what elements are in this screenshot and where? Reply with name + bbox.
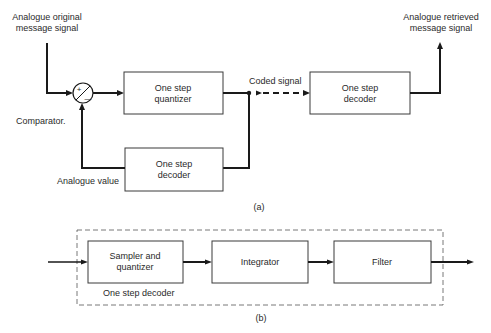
output-wire bbox=[410, 48, 440, 93]
b-output-arrow-icon bbox=[467, 260, 474, 265]
quantizer-label-line2: quantizer bbox=[154, 94, 191, 104]
integrator-input-arrow-icon bbox=[205, 260, 212, 265]
feedback-wire-left bbox=[82, 109, 125, 168]
feedback-decoder-label-line1: One step bbox=[156, 159, 193, 169]
filter-input-arrow-icon bbox=[327, 260, 334, 265]
output-label-line1: Analogue retrieved bbox=[403, 12, 479, 22]
diagram-a: Analogue original message signal + — Com… bbox=[12, 12, 479, 212]
integrator-block: Integrator bbox=[212, 241, 308, 283]
quantizer-block: One step quantizer bbox=[124, 72, 223, 114]
comparator-minus: — bbox=[85, 95, 92, 102]
sampler-quantizer-block: Sampler and quantizer bbox=[88, 241, 183, 283]
b-input-arrow-icon bbox=[81, 260, 88, 265]
input-wire bbox=[47, 43, 68, 93]
output-decoder-label-line2: decoder bbox=[344, 94, 377, 104]
input-label-line1: Analogue original bbox=[12, 12, 82, 22]
decoder-input-arrow-icon bbox=[303, 90, 310, 96]
feedback-label: Analogue value bbox=[57, 176, 119, 186]
output-decoder-block: One step decoder bbox=[310, 72, 410, 114]
input-label-line2: message signal bbox=[16, 23, 79, 33]
comparator: + — bbox=[73, 83, 93, 103]
filter-block: Filter bbox=[334, 241, 431, 283]
comparator-label: Comparator. bbox=[16, 116, 66, 126]
sampler-label-line1: Sampler and bbox=[109, 251, 160, 261]
caption-b: (b) bbox=[256, 313, 267, 323]
feedback-arrow-icon bbox=[79, 103, 85, 110]
diagram-b: One step decoder Sampler and quantizer I… bbox=[48, 230, 474, 323]
input-arrow-icon bbox=[66, 90, 73, 96]
comparator-plus: + bbox=[77, 85, 82, 94]
integrator-label: Integrator bbox=[241, 257, 280, 267]
output-label-line2: message signal bbox=[410, 23, 473, 33]
filter-label: Filter bbox=[372, 257, 392, 267]
diagram-canvas: Analogue original message signal + — Com… bbox=[0, 0, 491, 333]
coded-arrow-icon bbox=[256, 91, 262, 96]
caption-a: (a) bbox=[254, 202, 265, 212]
feedback-decoder-label-line2: decoder bbox=[158, 170, 191, 180]
output-decoder-label-line1: One step bbox=[342, 83, 379, 93]
quantizer-label-line1: One step bbox=[155, 83, 192, 93]
quantizer-input-arrow-icon bbox=[117, 90, 124, 96]
feedback-wire-right bbox=[223, 93, 249, 168]
feedback-decoder-block: One step decoder bbox=[125, 148, 223, 191]
output-arrow-icon bbox=[437, 42, 443, 49]
sampler-label-line2: quantizer bbox=[116, 262, 153, 272]
group-label: One step decoder bbox=[103, 288, 175, 298]
coded-signal-label: Coded signal bbox=[249, 76, 302, 86]
